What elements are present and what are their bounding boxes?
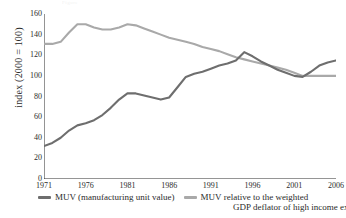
legend-swatch-muv-relative-icon [184, 196, 197, 199]
legend-item-muv: MUV (manufacturing unit value) [38, 192, 175, 203]
y-tick-label: 160 [22, 10, 42, 18]
legend: MUV (manufacturing unit value) MUV relat… [38, 192, 338, 212]
faint-header: Figure [62, 0, 182, 8]
y-tick-label: 140 [22, 31, 42, 39]
y-axis-ticks: 160140120100806040200 [18, 0, 42, 190]
chart-root: Figure index (2000 = 100) 16014012010080… [0, 0, 346, 218]
legend-swatch-muv-icon [38, 196, 51, 199]
legend-label-muv-relative-line2: GDP deflator of high income exporters [233, 202, 338, 213]
y-tick-label: 120 [22, 51, 42, 59]
y-tick-label: 80 [22, 93, 42, 101]
x-tick-label: 1991 [203, 181, 219, 190]
x-tick-label: 1976 [78, 181, 94, 190]
legend-item-muv-relative: MUV relative to the weighted [184, 192, 309, 203]
x-tick-label: 1996 [245, 181, 261, 190]
plot-area [44, 14, 336, 179]
y-tick-label: 20 [22, 154, 42, 162]
legend-label-muv-relative: MUV relative to the weighted [201, 192, 309, 203]
y-tick-label: 100 [22, 72, 42, 80]
legend-label-muv: MUV (manufacturing unit value) [55, 192, 175, 203]
x-tick-label: 1986 [161, 181, 177, 190]
line-muv-relative [44, 24, 336, 76]
x-tick-label: 2001 [286, 181, 302, 190]
y-tick-label: 60 [22, 113, 42, 121]
x-tick-label: 2006 [328, 181, 344, 190]
axis-tickmarks [44, 14, 336, 179]
line-muv [44, 52, 336, 146]
x-tick-label: 1971 [36, 181, 52, 190]
series-svg [44, 14, 336, 179]
y-tick-label: 40 [22, 134, 42, 142]
x-tick-label: 1981 [119, 181, 135, 190]
